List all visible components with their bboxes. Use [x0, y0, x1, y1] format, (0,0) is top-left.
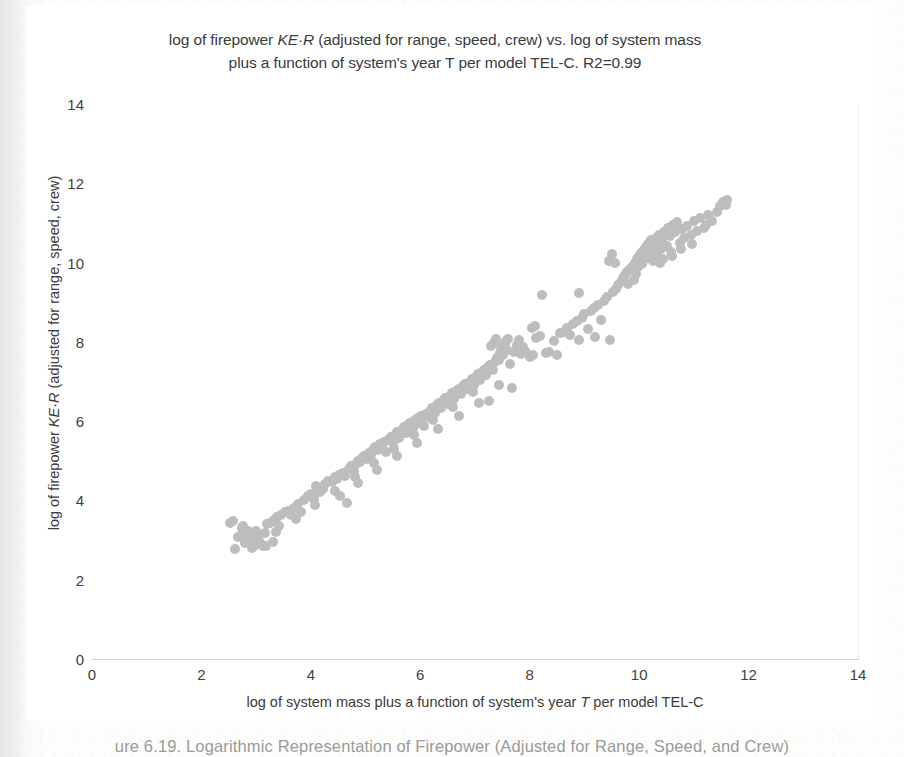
- scatter-point: [596, 315, 606, 325]
- scatter-point: [484, 396, 494, 406]
- scatter-point: [552, 350, 562, 360]
- scatter-point: [530, 321, 540, 331]
- scatter-point: [419, 421, 429, 431]
- chart-title-line1-italic: KE·R: [277, 31, 314, 48]
- scatter-point: [230, 544, 240, 554]
- scatter-point: [687, 239, 697, 249]
- scatter-point: [605, 335, 615, 345]
- scatter-point: [468, 387, 478, 397]
- scatter-point: [590, 332, 600, 342]
- scatter-point: [494, 380, 504, 390]
- gridline-vertical: [858, 104, 859, 659]
- x-tick-label: 12: [719, 666, 779, 683]
- scatter-point: [392, 451, 402, 461]
- plot-area: [92, 104, 858, 659]
- chart-title-line1-pre: log of firepower: [169, 31, 278, 48]
- scatter-point: [574, 335, 584, 345]
- scatter-point: [574, 288, 584, 298]
- scatter-point: [433, 424, 443, 434]
- scatter-point: [271, 527, 281, 537]
- scatter-point: [260, 528, 270, 538]
- scatter-point: [228, 516, 238, 526]
- scatter-point: [474, 398, 484, 408]
- figure-caption: ure 6.19. Logarithmic Representation of …: [0, 737, 904, 756]
- scatter-point: [607, 249, 617, 259]
- scatter-point: [503, 334, 513, 344]
- chart-title-line1: log of firepower KE·R (adjusted for rang…: [169, 31, 701, 48]
- y-tick-label: 0: [10, 651, 84, 668]
- chart-title: log of firepower KE·R (adjusted for rang…: [40, 28, 830, 74]
- y-axis-tick-labels: 02468101214: [0, 0, 84, 757]
- scatter-point: [291, 514, 301, 524]
- scatter-point: [310, 500, 320, 510]
- scatter-point: [372, 465, 382, 475]
- y-axis-title-italic: KE·R: [46, 393, 62, 428]
- x-tick-label: 6: [390, 666, 450, 683]
- scatter-point: [537, 290, 547, 300]
- scatter-point: [535, 331, 545, 341]
- scatter-point: [528, 350, 538, 360]
- x-tick-label: 10: [609, 666, 669, 683]
- scatter-point: [448, 402, 458, 412]
- scatter-point: [268, 537, 278, 547]
- x-axis-title-italic: T: [580, 694, 589, 710]
- chart-title-line2: plus a function of system's year T per m…: [229, 54, 642, 71]
- scatter-point: [610, 258, 620, 268]
- scatter-point: [505, 359, 515, 369]
- x-axis-title-pre: log of system mass plus a function of sy…: [246, 694, 580, 710]
- x-tick-label: 0: [62, 666, 122, 683]
- x-tick-label: 8: [500, 666, 560, 683]
- x-tick-label: 4: [281, 666, 341, 683]
- x-tick-label: 2: [171, 666, 231, 683]
- scatter-point: [701, 220, 711, 230]
- x-axis-line: [92, 659, 859, 660]
- scatter-points-layer: [92, 104, 858, 659]
- scatter-point: [722, 195, 732, 205]
- scatter-point: [454, 411, 464, 421]
- y-axis-title: log of firepower KE·R (adjusted for rang…: [46, 93, 62, 613]
- scatter-point: [676, 244, 686, 254]
- chart-title-line1-post: (adjusted for range, speed, crew) vs. lo…: [314, 31, 701, 48]
- y-axis-title-pre: log of firepower: [46, 427, 62, 530]
- y-axis-title-post: (adjusted for range, speed, crew): [46, 176, 62, 393]
- scatter-point: [353, 478, 363, 488]
- scatter-point: [412, 438, 422, 448]
- scatter-point: [507, 383, 517, 393]
- x-axis-title: log of system mass plus a function of sy…: [92, 694, 858, 710]
- x-tick-label: 14: [828, 666, 888, 683]
- scatter-point: [667, 251, 677, 261]
- x-axis-title-post: per model TEL-C: [589, 694, 703, 710]
